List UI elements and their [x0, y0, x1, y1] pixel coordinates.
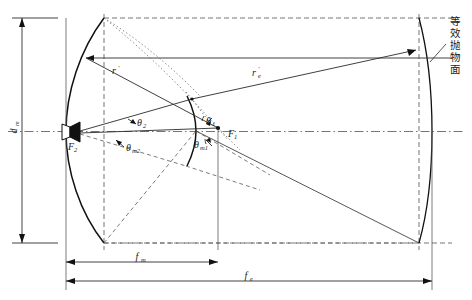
label-fe-subscript: e [250, 275, 253, 282]
label-theta-m1-subscript: m1 [200, 144, 208, 151]
label-re-prime-subscript: e [258, 72, 261, 79]
antenna-geometry-diagram: d m f m f e F 1 F 2 r ′ r e ′ θ 1 [0, 0, 472, 300]
annotation-char-5: 面 [450, 63, 460, 75]
diagram-canvas: d m f m f e F 1 F 2 r ′ r e ′ θ 1 [0, 0, 472, 300]
label-theta-m2-subscript: m2 [132, 147, 141, 154]
label-theta2-text: θ [137, 117, 142, 128]
label-re-prime-text: r [252, 67, 256, 78]
annotation-char-3: 抛 [450, 39, 461, 51]
focus-point-f1-marker [216, 126, 220, 130]
annotation-equivalent-paraboloid: 等 效 抛 物 面 [450, 15, 461, 75]
label-theta-m1-text: θ [194, 139, 199, 150]
label-theta1-subscript: 1 [212, 120, 215, 127]
label-theta1-text: θ [206, 115, 211, 126]
label-f1-subscript: 1 [234, 133, 237, 140]
label-fm-subscript: m [141, 256, 146, 263]
label-theta-m2-text: θ [126, 142, 131, 153]
subreflector-point-marker [190, 97, 193, 100]
annotation-char-2: 效 [450, 27, 461, 39]
annotation-char-4: 物 [450, 51, 460, 63]
label-r-prime-text: r [112, 65, 116, 76]
label-dm-subscript: m [13, 121, 20, 126]
annotation-char-1: 等 [450, 15, 461, 27]
